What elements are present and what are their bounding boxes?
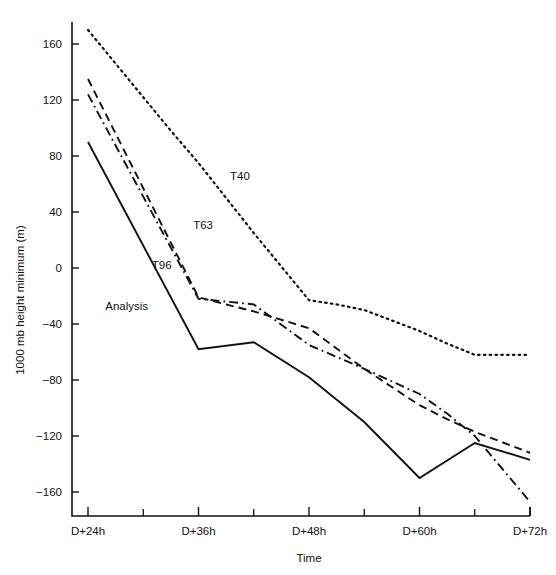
x-tick-label: D+24h: [71, 525, 105, 537]
y-tick-label: 120: [43, 94, 62, 106]
series-label-t96: T96: [152, 259, 172, 271]
y-tick-label: 160: [43, 38, 62, 50]
axes: [72, 22, 530, 516]
series-annotations: T40T63T96Analysis: [105, 170, 250, 312]
y-tick-label: 80: [49, 150, 62, 162]
x-tick-label: D+36h: [181, 525, 215, 537]
x-axis-title: Time: [296, 552, 321, 564]
y-tick-label: −120: [36, 430, 62, 442]
series-line-t96: [88, 94, 530, 501]
x-tick-label: D+72h: [513, 525, 547, 537]
y-tick-label: 40: [49, 206, 62, 218]
y-tick-label: −40: [42, 318, 62, 330]
x-tick-label: D+48h: [292, 525, 326, 537]
line-chart: 16012080400−40−80−120−160 D+24hD+36hD+48…: [0, 0, 556, 575]
axis-spines: [72, 22, 530, 516]
series-label-analysis: Analysis: [105, 300, 148, 312]
y-tick-label: −80: [42, 374, 62, 386]
y-axis-title: 1000 mb height minimum (m): [14, 225, 26, 375]
axis-ticks: [72, 44, 530, 516]
series-line-t40: [88, 30, 530, 355]
x-axis-tick-labels: D+24hD+36hD+48hD+60hD+72h: [71, 525, 547, 537]
series-label-t40: T40: [230, 170, 250, 182]
y-tick-label: −160: [36, 486, 62, 498]
series-label-t63: T63: [193, 219, 213, 231]
y-axis-tick-labels: 16012080400−40−80−120−160: [36, 38, 62, 498]
y-tick-label: 0: [56, 262, 62, 274]
x-tick-label: D+60h: [402, 525, 436, 537]
chart-container: 16012080400−40−80−120−160 D+24hD+36hD+48…: [0, 0, 556, 575]
